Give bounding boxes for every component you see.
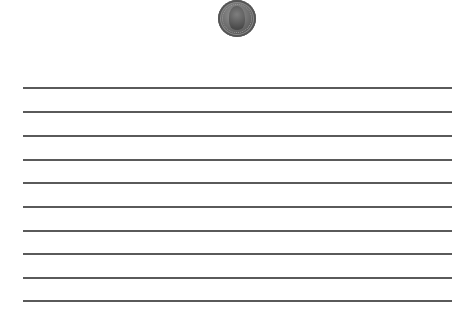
ruled-lines — [0, 0, 476, 315]
ruled-line — [23, 230, 452, 232]
ruled-line — [23, 253, 452, 255]
ruled-line — [23, 182, 452, 184]
ruled-line — [23, 277, 452, 279]
ruled-line — [23, 159, 452, 161]
ruled-line — [23, 300, 452, 302]
ruled-line — [23, 87, 452, 89]
ruled-line — [23, 135, 452, 137]
ruled-line — [23, 206, 452, 208]
ruled-line — [23, 111, 452, 113]
